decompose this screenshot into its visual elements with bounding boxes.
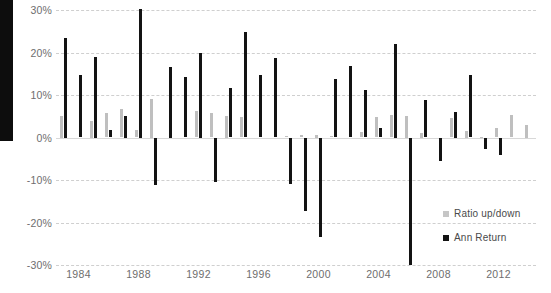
y-axis-labels: 30%20%10%0%-10%-20%-30% — [0, 10, 52, 265]
bar-ann-return — [124, 116, 127, 137]
bar-ratio-up-down — [525, 125, 528, 138]
bar-ann-return — [469, 75, 472, 138]
y-axis-tick-label: 20% — [6, 47, 52, 59]
bar-group — [176, 10, 191, 265]
bar-ann-return — [289, 138, 292, 185]
bar-ratio-up-down — [225, 116, 228, 137]
y-axis-tick-label: 30% — [6, 4, 52, 16]
bar-ann-return — [229, 88, 232, 137]
y-axis-tick-label: 10% — [6, 89, 52, 101]
bar-ratio-up-down — [210, 113, 213, 138]
bar-ratio-up-down — [360, 132, 363, 137]
bar-ann-return — [154, 138, 157, 186]
bar-ann-return — [94, 57, 97, 138]
bar-ann-return — [454, 112, 457, 138]
bar-ann-return — [244, 32, 247, 137]
bar-group — [101, 10, 116, 265]
x-axis-tick-label: 1996 — [246, 268, 271, 280]
bar-ratio-up-down — [495, 128, 498, 137]
bar-group — [266, 10, 281, 265]
bar-ratio-up-down — [195, 111, 198, 137]
x-axis-tick-label: 1988 — [126, 268, 151, 280]
legend-item-ratio[interactable]: Ratio up/down — [443, 206, 521, 222]
bar-ann-return — [214, 138, 217, 183]
bar-group — [326, 10, 341, 265]
bar-ratio-up-down — [510, 115, 513, 137]
bar-group — [71, 10, 86, 265]
bar-ratio-up-down — [135, 130, 138, 138]
bar-ann-return — [259, 75, 262, 138]
bar-group — [251, 10, 266, 265]
bar-ratio-up-down — [120, 109, 123, 138]
bar-ann-return — [439, 138, 442, 161]
legend-item-return[interactable]: Ann Return — [443, 230, 521, 246]
bar-ratio-up-down — [330, 136, 333, 138]
x-axis-tick-label: 2000 — [306, 268, 331, 280]
bar-group — [86, 10, 101, 265]
y-axis-tick-label: -30% — [6, 259, 52, 271]
bar-group — [386, 10, 401, 265]
bar-ann-return — [304, 138, 307, 212]
bar-group — [206, 10, 221, 265]
legend-label: Ratio up/down — [454, 209, 521, 219]
gridline--30 — [56, 265, 536, 266]
bar-group — [341, 10, 356, 265]
bar-group — [281, 10, 296, 265]
bar-ann-return — [409, 138, 412, 266]
bar-ratio-up-down — [105, 113, 108, 138]
bar-group — [131, 10, 146, 265]
y-axis-tick-label: -20% — [6, 217, 52, 229]
bar-ratio-up-down — [420, 133, 423, 137]
bar-ann-return — [274, 58, 277, 138]
bar-ratio-up-down — [375, 117, 378, 137]
bar-group — [296, 10, 311, 265]
bar-ratio-up-down — [450, 118, 453, 138]
chart-legend: Ratio up/downAnn Return — [443, 206, 521, 254]
legend-swatch-icon — [443, 235, 449, 241]
bar-ann-return — [64, 38, 67, 138]
bar-ratio-up-down — [465, 131, 468, 137]
bar-group — [146, 10, 161, 265]
bar-group — [371, 10, 386, 265]
bar-ann-return — [139, 9, 142, 137]
x-axis-tick-label: 2004 — [366, 268, 391, 280]
legend-label: Ann Return — [454, 233, 507, 243]
bar-group — [236, 10, 251, 265]
bar-ratio-up-down — [405, 116, 408, 137]
legend-swatch-icon — [443, 211, 449, 217]
bar-group — [116, 10, 131, 265]
bar-group — [311, 10, 326, 265]
bar-ann-return — [379, 128, 382, 138]
bar-ratio-up-down — [90, 121, 93, 138]
bar-ann-return — [484, 138, 487, 149]
bar-ann-return — [394, 44, 397, 138]
bar-ann-return — [424, 100, 427, 137]
bar-ratio-up-down — [285, 136, 288, 138]
x-axis-tick-label: 1984 — [66, 268, 91, 280]
bar-ann-return — [364, 90, 367, 138]
bar-group — [521, 10, 536, 265]
y-axis-tick-label: 0% — [6, 132, 52, 144]
x-axis-tick-label: 2012 — [486, 268, 511, 280]
bar-group — [356, 10, 371, 265]
bar-ann-return — [319, 138, 322, 237]
bar-ann-return — [199, 53, 202, 138]
y-axis-tick-label: -10% — [6, 174, 52, 186]
x-axis-tick-label: 1992 — [186, 268, 211, 280]
bar-ratio-up-down — [150, 99, 153, 137]
bar-group — [401, 10, 416, 265]
bar-ann-return — [499, 138, 502, 156]
bar-ann-return — [184, 77, 187, 138]
bar-ratio-up-down — [240, 117, 243, 137]
bar-ratio-up-down — [480, 137, 483, 138]
bar-ann-return — [109, 130, 112, 138]
bar-group — [56, 10, 71, 265]
bar-group — [161, 10, 176, 265]
bar-group — [191, 10, 206, 265]
bar-group — [221, 10, 236, 265]
bar-ratio-up-down — [315, 135, 318, 137]
bar-ann-return — [169, 67, 172, 137]
x-axis-tick-label: 2008 — [426, 268, 451, 280]
bar-ratio-up-down — [300, 135, 303, 138]
bar-ann-return — [334, 79, 337, 138]
